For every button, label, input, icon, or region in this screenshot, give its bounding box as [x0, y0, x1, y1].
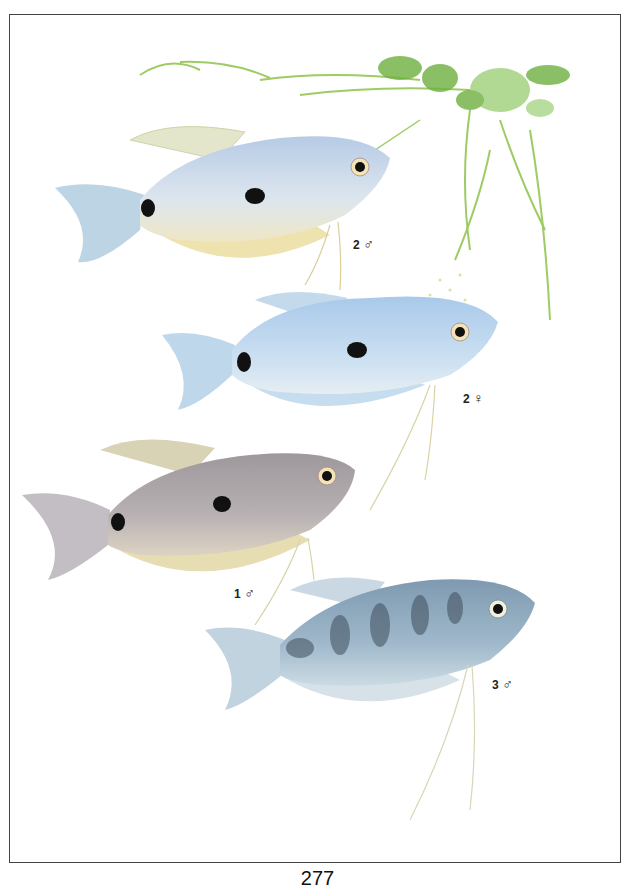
label-fish-2-male: 2♂ — [353, 236, 374, 252]
male-symbol-icon: ♂ — [502, 676, 513, 692]
fish-1-male — [22, 439, 355, 625]
label-fish-1-male: 1♂ — [234, 585, 255, 601]
fish-2-male — [55, 127, 390, 290]
label-fish-2-female: 2♀ — [463, 390, 484, 406]
female-symbol-icon: ♀ — [473, 390, 484, 406]
fish-number: 1 — [234, 587, 241, 601]
fish-number: 2 — [463, 392, 470, 406]
fish-illustration — [0, 0, 635, 893]
male-symbol-icon: ♂ — [363, 236, 374, 252]
label-fish-3-male: 3♂ — [492, 676, 513, 692]
fish-3-male — [205, 578, 535, 821]
fish-number: 3 — [492, 678, 499, 692]
page-number: 277 — [0, 867, 635, 890]
male-symbol-icon: ♂ — [244, 585, 255, 601]
fish-number: 2 — [353, 238, 360, 252]
